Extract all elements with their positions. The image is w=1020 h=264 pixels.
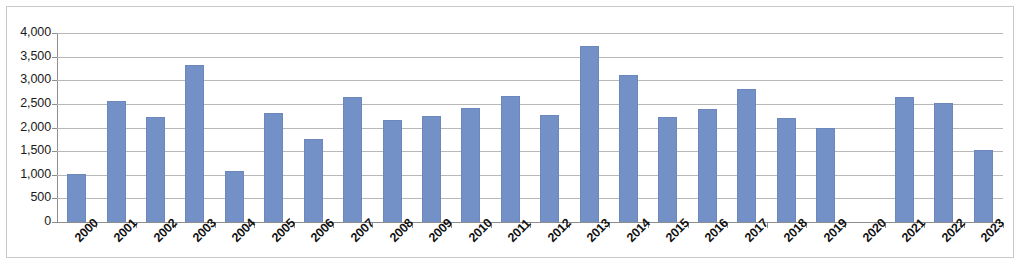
bar [304, 139, 323, 222]
bar [934, 103, 953, 222]
bar [777, 118, 796, 222]
y-axis-tick-label: 3,500 [7, 49, 51, 63]
bar [383, 120, 402, 222]
y-axis-tick-label: 1,500 [7, 143, 51, 157]
bar [343, 97, 362, 222]
bar [540, 115, 559, 222]
bar [974, 150, 993, 222]
bar [580, 46, 599, 222]
y-axis-tick-label: 2,500 [7, 96, 51, 110]
bar [225, 171, 244, 222]
y-axis-tick-label: 2,000 [7, 120, 51, 134]
chart-frame: 4,0003,5003,0002,5002,0001,5001,0005000 … [6, 6, 1014, 258]
y-axis-tick-label: 1,000 [7, 167, 51, 181]
y-axis-tick-label: 3,000 [7, 72, 51, 86]
bar [698, 109, 717, 222]
y-axis-tick-label: 0 [7, 214, 51, 228]
bar [501, 96, 520, 222]
bar [658, 117, 677, 222]
bar [146, 117, 165, 222]
plot-area [57, 33, 1003, 222]
x-axis-labels: 2000200120022003200420052006200720082009… [57, 229, 1003, 264]
bar [737, 89, 756, 222]
bar [264, 113, 283, 222]
bar [816, 128, 835, 222]
bar [895, 97, 914, 222]
gridline [57, 33, 1003, 34]
bar [619, 75, 638, 222]
gridline [57, 57, 1003, 58]
bar [107, 101, 126, 222]
bar [422, 116, 441, 222]
bar [461, 108, 480, 222]
bar [185, 65, 204, 222]
y-axis-tick-label: 500 [7, 190, 51, 204]
bar [67, 174, 86, 222]
y-axis-tick-label: 4,000 [7, 25, 51, 39]
